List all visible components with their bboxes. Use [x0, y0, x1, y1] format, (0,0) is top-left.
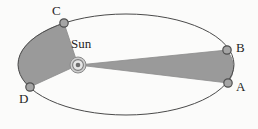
sun-symbol: [70, 57, 86, 73]
sun-label: Sun: [71, 37, 91, 50]
swept-area-cd-sector: [18, 23, 78, 87]
orbital-diagram-figure: Sun A B C D: [0, 0, 258, 129]
point-label-b: B: [236, 41, 245, 54]
orbit-marker-d[interactable]: [26, 83, 34, 91]
sun-core-dot: [76, 63, 81, 68]
orbit-marker-c[interactable]: [60, 19, 68, 27]
orbit-marker-b[interactable]: [223, 46, 231, 54]
point-label-a: A: [236, 80, 245, 93]
point-label-c: C: [52, 4, 61, 17]
point-label-d: D: [19, 92, 28, 105]
orbit-marker-a[interactable]: [224, 79, 232, 87]
swept-area-ab-sector: [78, 50, 233, 83]
orbit-diagram-svg: [0, 0, 258, 129]
